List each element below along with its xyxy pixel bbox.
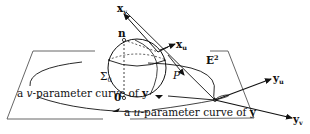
label-x-v: xv: [117, 2, 127, 16]
label-y-v: yv: [292, 113, 303, 127]
label-e2: E2: [206, 54, 219, 66]
label-x-u: xu: [176, 38, 187, 52]
sphere-plane-diagram: xv n xu Σ0 0 P E2 yu yv a v-parameter cu…: [0, 0, 310, 134]
label-y-u: yu: [272, 72, 284, 86]
tangent-vectors: [124, 14, 175, 52]
label-n: n: [118, 27, 126, 39]
label-sigma-0: Σ0: [100, 70, 112, 84]
label-v-parameter-curve: a v-parameter curve of y: [17, 87, 149, 99]
label-p: P: [172, 69, 181, 81]
diagram-canvas: xv n xu Σ0 0 P E2 yu yv a v-parameter cu…: [0, 0, 310, 134]
label-u-parameter-curve: a u-parameter curve of y: [124, 106, 257, 118]
labels: xv n xu Σ0 0 P E2 yu yv a v-parameter cu…: [17, 2, 303, 127]
